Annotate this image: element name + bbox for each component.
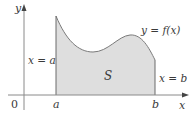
region-label: S <box>104 70 112 82</box>
x-axis-label: x <box>179 100 185 111</box>
right-bound-label: x = b <box>159 73 187 84</box>
y-axis-arrow-icon <box>22 4 27 11</box>
curve-label: y = f(x) <box>141 25 180 36</box>
area-under-curve-diagram: y x 0 a b x = a x = b y = f(x) S <box>0 0 192 115</box>
origin-label: 0 <box>11 99 18 110</box>
tick-a-label: a <box>53 99 60 110</box>
left-bound-label: x = a <box>28 55 56 66</box>
y-axis-label: y <box>15 3 21 14</box>
tick-b-label: b <box>152 99 159 110</box>
x-axis-arrow-icon <box>182 93 189 98</box>
